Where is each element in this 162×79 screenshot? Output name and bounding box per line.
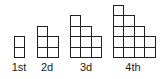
block-cell	[47, 36, 58, 47]
block-cell	[14, 47, 25, 58]
block-cell	[14, 36, 25, 47]
block-cell	[91, 36, 102, 47]
figure-label-1st: 1st	[4, 61, 34, 74]
figure-label-4th: 4th	[118, 61, 148, 74]
block-cell	[144, 47, 155, 58]
block-cell	[144, 36, 155, 47]
figure-label-2d: 2d	[32, 61, 62, 74]
block-cell	[47, 47, 58, 58]
block-cell	[91, 47, 102, 58]
figure-label-3d: 3d	[71, 61, 101, 74]
